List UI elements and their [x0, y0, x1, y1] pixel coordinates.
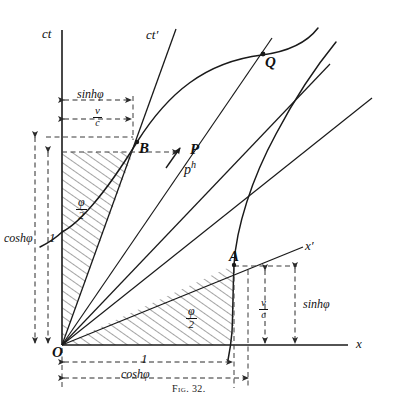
angle-label-upper-sector: φ 2	[76, 196, 87, 221]
ct-axis-label: ct	[42, 27, 51, 40]
v-over-c-top-label: v c	[93, 105, 102, 128]
momentum-vector-label: ph	[184, 160, 196, 177]
v-over-c-top-denominator: c	[93, 118, 102, 129]
point-label-P: P	[190, 142, 199, 157]
v-over-c-top-numerator: v	[93, 105, 102, 118]
x-prime-axis-label: x′	[305, 239, 314, 252]
ct-prime-axis-label: ct′	[146, 28, 158, 41]
momentum-vector-superscript: h	[191, 159, 196, 170]
figure-caption: Fig. 32.	[172, 383, 206, 394]
one-bottom-label: 1	[141, 352, 148, 365]
figure-container: ct ct′ x x′ O B A Q P ph sinhφ v c coshφ…	[0, 0, 394, 399]
momentum-vector-arrow	[166, 148, 180, 168]
angle-upper-numerator: φ	[76, 196, 87, 210]
one-left-label: 1	[49, 231, 56, 244]
sinh-phi-right-label: sinhφ	[303, 298, 330, 310]
angle-upper-denominator: 2	[76, 210, 87, 222]
point-label-Q: Q	[265, 55, 276, 70]
angle-lower-numerator: φ	[186, 305, 197, 319]
angle-lower-denominator: 2	[186, 319, 197, 331]
angle-label-lower-sector: φ 2	[186, 305, 197, 330]
v-over-c-right-denominator: c	[259, 310, 268, 321]
cosh-phi-left-label: coshφ	[4, 232, 33, 244]
point-label-A: A	[229, 249, 239, 264]
cosh-phi-bottom-label: coshφ	[121, 368, 150, 380]
v-over-c-right-numerator: v	[259, 297, 268, 310]
origin-label: O	[52, 345, 63, 360]
point-label-B: B	[139, 141, 149, 156]
x-axis-label: x	[356, 337, 362, 350]
minkowski-diagram	[0, 0, 394, 399]
momentum-vector-base: p	[184, 162, 191, 177]
sinh-phi-top-label: sinhφ	[77, 88, 104, 100]
v-over-c-right-label: v c	[259, 297, 268, 320]
spacelike-hyperbola	[228, 42, 336, 360]
